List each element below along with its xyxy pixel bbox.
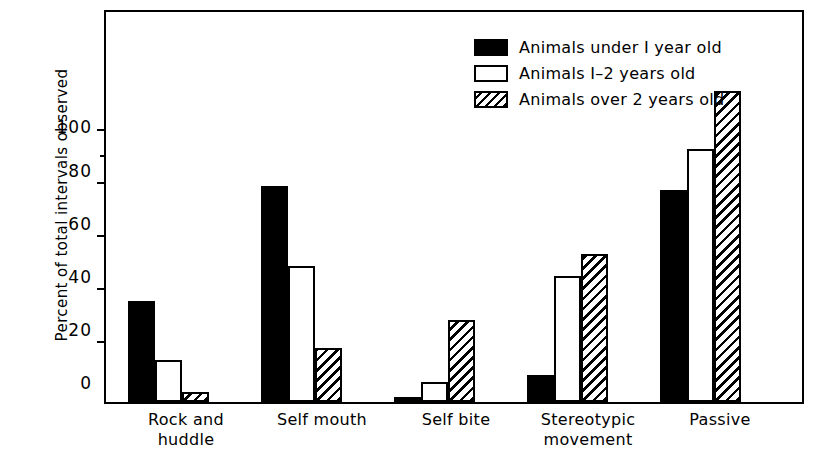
bar-group-self-mouth (261, 186, 342, 402)
bar-self-mouth-under-1[interactable] (261, 186, 288, 402)
y-tick-label-100: 100 (44, 117, 92, 137)
y-tick-label-60: 60 (44, 214, 92, 234)
y-tick-20 (97, 341, 106, 343)
y-tick-label-0: 0 (44, 373, 92, 393)
bar-group-passive (660, 91, 741, 402)
legend-label-under-1-year: Animals under I year old (519, 38, 722, 57)
bar-self-bite-under-1[interactable] (394, 397, 421, 402)
bar-self-bite-1-2[interactable] (421, 382, 448, 402)
bar-passive-over-2[interactable] (714, 91, 741, 402)
bar-group-stereotypic-movement (527, 254, 608, 402)
bar-stereotypic-under-1[interactable] (527, 375, 554, 402)
bar-passive-1-2[interactable] (687, 149, 714, 402)
y-tick-60 (97, 235, 106, 237)
legend-item-1-2-years[interactable]: Animals I–2 years old (474, 64, 725, 83)
plot-area: Animals under I year old Animals I–2 yea… (104, 10, 804, 404)
y-axis-title: Percent of total intervals observed (53, 55, 71, 355)
hatched-swatch-icon (474, 91, 508, 108)
bar-rock-and-huddle-over-2[interactable] (182, 392, 209, 402)
y-tick-80 (97, 182, 106, 184)
bar-self-bite-over-2[interactable] (448, 320, 475, 403)
bar-passive-under-1[interactable] (660, 190, 687, 402)
bar-chart-figure: Percent of total intervals observed 100 … (0, 0, 824, 470)
legend-label-over-2-years: Animals over 2 years old (519, 90, 725, 109)
legend: Animals under I year old Animals I–2 yea… (474, 38, 725, 109)
y-tick-40 (97, 288, 106, 290)
bar-self-mouth-over-2[interactable] (315, 348, 342, 402)
y-tick-label-20: 20 (44, 320, 92, 340)
bar-group-self-bite (394, 320, 475, 403)
y-tick-label-80: 80 (44, 161, 92, 181)
bar-stereotypic-1-2[interactable] (554, 276, 581, 402)
legend-item-under-1-year[interactable]: Animals under I year old (474, 38, 725, 57)
legend-item-over-2-years[interactable]: Animals over 2 years old (474, 90, 725, 109)
x-category-label-passive: Passive (640, 410, 800, 430)
bar-self-mouth-1-2[interactable] (288, 266, 315, 402)
bar-rock-and-huddle-1-2[interactable] (155, 360, 182, 402)
bar-group-rock-and-huddle (128, 301, 209, 402)
y-tick-100 (97, 129, 106, 131)
bar-stereotypic-over-2[interactable] (581, 254, 608, 402)
legend-label-1-2-years: Animals I–2 years old (519, 64, 696, 83)
bar-rock-and-huddle-under-1[interactable] (128, 301, 155, 402)
open-swatch-icon (474, 65, 508, 82)
solid-swatch-icon (474, 39, 508, 56)
y-tick-label-40: 40 (44, 267, 92, 287)
